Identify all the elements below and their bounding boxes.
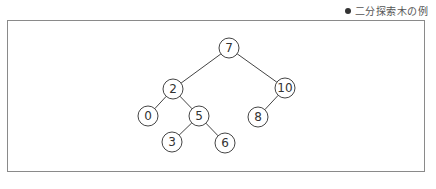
tree-edge — [179, 123, 192, 135]
tree-edge — [155, 96, 166, 108]
tree-node-3: 3 — [162, 132, 182, 152]
tree-edge — [237, 54, 277, 82]
tree-nodes: 721005836 — [138, 38, 295, 153]
tree-node-8: 8 — [248, 107, 268, 127]
node-label: 3 — [168, 135, 176, 149]
node-label: 10 — [277, 81, 292, 95]
tree-node-10: 10 — [275, 78, 295, 98]
binary-search-tree: 721005836 — [0, 0, 436, 189]
tree-edge — [265, 95, 278, 109]
tree-edge — [206, 123, 218, 136]
tree-node-5: 5 — [189, 106, 209, 126]
node-label: 5 — [195, 109, 203, 123]
node-label: 7 — [225, 41, 233, 55]
node-label: 2 — [169, 82, 177, 96]
node-label: 6 — [221, 136, 229, 150]
node-label: 0 — [144, 109, 152, 123]
tree-node-2: 2 — [163, 79, 183, 99]
tree-node-7: 7 — [219, 38, 239, 58]
tree-node-6: 6 — [215, 133, 235, 153]
tree-edge — [180, 96, 192, 109]
tree-edge — [181, 54, 221, 83]
node-label: 8 — [254, 110, 262, 124]
tree-node-0: 0 — [138, 106, 158, 126]
